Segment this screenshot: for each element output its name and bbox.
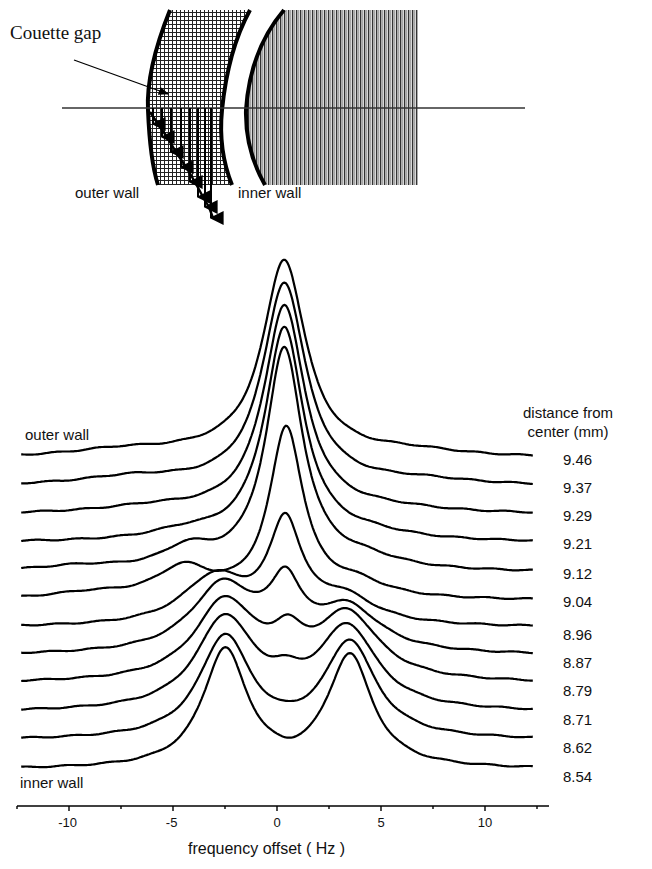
x-axis-label: frequency offset ( Hz ) (188, 840, 345, 858)
inner-wall-trace-label: inner wall (20, 774, 83, 791)
distance-label: 9.12 (563, 565, 592, 582)
spectrum-trace (21, 567, 533, 654)
distance-label: 9.21 (563, 535, 592, 552)
x-tick-label: 10 (478, 815, 492, 830)
inner-wall-diagram-label: inner wall (238, 184, 301, 201)
spectrum-trace (21, 647, 533, 767)
x-tick-label: 0 (273, 815, 280, 830)
distance-header-line2: center (mm) (523, 422, 613, 441)
outer-wall-diagram-label: outer wall (75, 184, 139, 201)
x-tick-label: 5 (377, 815, 384, 830)
spectrum-trace (21, 513, 533, 626)
spectrum-trace (21, 305, 533, 513)
x-axis (17, 806, 549, 811)
distance-label: 9.46 (563, 451, 592, 468)
x-tick-label: -10 (58, 815, 77, 830)
distance-label: 8.71 (563, 711, 592, 728)
distance-label: 8.62 (563, 739, 592, 756)
distance-label: 8.79 (563, 682, 592, 699)
spectra-stack (21, 260, 533, 767)
distance-label: 8.87 (563, 654, 592, 671)
inner-cylinder-region (246, 10, 418, 185)
distance-label: 9.04 (563, 593, 592, 610)
distance-label: 9.29 (563, 507, 592, 524)
couette-gap-label: Couette gap (10, 22, 101, 44)
spectrum-trace (21, 614, 533, 710)
x-tick-label: -5 (166, 815, 178, 830)
distance-label: 9.37 (563, 479, 592, 496)
distance-header-line1: distance from (523, 403, 613, 422)
distance-label: 8.96 (563, 626, 592, 643)
outer-wall-trace-label: outer wall (25, 426, 89, 443)
distance-header: distance from center (mm) (523, 403, 613, 441)
spectrum-trace (21, 260, 533, 456)
distance-label: 8.54 (563, 768, 592, 785)
spectrum-trace (21, 596, 533, 681)
